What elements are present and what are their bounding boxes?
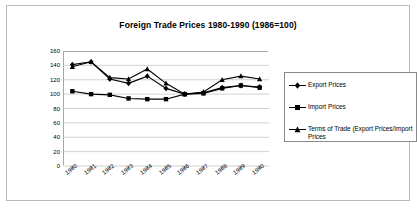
y-axis-tick-140: 140 (40, 62, 60, 68)
y-axis-tick-100: 100 (40, 91, 60, 97)
triangle-marker-icon (289, 125, 306, 134)
legend-item-export-prices: Export Prices (289, 81, 416, 90)
y-axis-tick-20: 20 (40, 149, 60, 155)
y-axis-tick-120: 120 (40, 77, 60, 83)
chart-legend: Export Prices Import Prices Terms of Tra… (284, 72, 417, 142)
x-axis-tick-labels: 1980198119821983198419851986198719881989… (63, 167, 269, 189)
chart-object-frame: Foreign Trade Prices 1980-1990 (1986=100… (6, 5, 410, 201)
y-axis-tick-80: 80 (40, 106, 60, 112)
chart-title: Foreign Trade Prices 1980-1990 (1986=100… (7, 20, 409, 30)
y-axis-tick-40: 40 (40, 134, 60, 140)
square-marker-icon (289, 103, 306, 112)
y-axis-tick-labels: 020406080100120140160 (37, 51, 60, 165)
y-axis-tick-0: 0 (40, 163, 60, 169)
legend-label-export-prices: Export Prices (306, 81, 346, 89)
legend-item-import-prices: Import Prices (289, 103, 416, 112)
diamond-marker-icon (289, 81, 306, 90)
legend-label-terms-of-trade: Terms of Trade (Export Prices/Import Pri… (306, 125, 416, 142)
y-axis-tick-60: 60 (40, 120, 60, 126)
y-axis-tick-160: 160 (40, 48, 60, 54)
legend-label-import-prices: Import Prices (306, 103, 346, 111)
plot-area (63, 51, 269, 166)
legend-item-terms-of-trade: Terms of Trade (Export Prices/Import Pri… (289, 125, 416, 142)
